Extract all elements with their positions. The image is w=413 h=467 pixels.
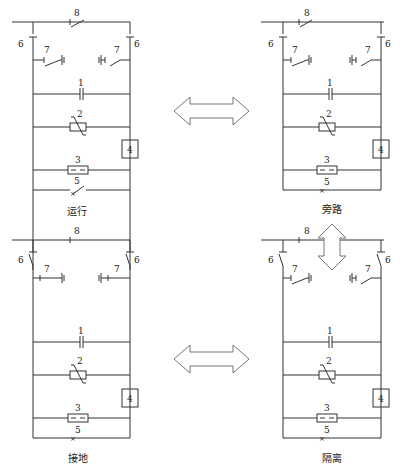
double-arrow-vertical bbox=[318, 224, 346, 270]
svg-text:1: 1 bbox=[327, 78, 333, 88]
svg-text:7: 7 bbox=[292, 264, 298, 274]
panel-grounded: 8 6 6 7 7 1 2 4 3 bbox=[12, 226, 140, 464]
svg-text:5: 5 bbox=[74, 176, 80, 186]
svg-text:×: × bbox=[70, 190, 76, 198]
svg-text:6: 6 bbox=[268, 255, 274, 265]
svg-text:3: 3 bbox=[324, 403, 330, 413]
svg-text:6: 6 bbox=[268, 39, 274, 49]
double-arrow-bottom bbox=[174, 345, 249, 373]
svg-text:7: 7 bbox=[292, 45, 298, 55]
svg-text:3: 3 bbox=[324, 155, 330, 165]
svg-text:×: × bbox=[70, 435, 76, 443]
svg-text:4: 4 bbox=[127, 145, 133, 155]
svg-text:3: 3 bbox=[75, 155, 81, 165]
svg-text:7: 7 bbox=[44, 264, 50, 274]
caption-operation: 运行 bbox=[67, 205, 87, 217]
svg-text:8: 8 bbox=[304, 8, 310, 18]
svg-text:4: 4 bbox=[378, 394, 384, 404]
svg-text:4: 4 bbox=[378, 145, 384, 155]
svg-text:×: × bbox=[319, 435, 325, 443]
svg-text:5: 5 bbox=[324, 425, 330, 435]
svg-text:1: 1 bbox=[78, 326, 84, 336]
svg-text:8: 8 bbox=[74, 226, 80, 236]
svg-text:6: 6 bbox=[134, 255, 140, 265]
diagram-canvas: 8 6 6 7 7 1 2 bbox=[0, 0, 413, 467]
svg-text:2: 2 bbox=[326, 109, 332, 119]
svg-text:7: 7 bbox=[114, 264, 120, 274]
svg-text:3: 3 bbox=[75, 403, 81, 413]
svg-text:1: 1 bbox=[78, 78, 84, 88]
caption-grounded: 接地 bbox=[68, 452, 88, 464]
double-arrow-top bbox=[174, 97, 249, 125]
bypass-switch-open bbox=[71, 20, 84, 27]
caption-bypass: 旁路 bbox=[322, 203, 342, 215]
label-6-left: 6 bbox=[18, 39, 24, 49]
svg-text:8: 8 bbox=[304, 226, 310, 236]
svg-text:7: 7 bbox=[44, 45, 50, 55]
svg-text:7: 7 bbox=[365, 264, 371, 274]
svg-text:2: 2 bbox=[77, 356, 83, 366]
label-8: 8 bbox=[74, 8, 80, 18]
svg-text:7: 7 bbox=[114, 45, 120, 55]
svg-text:1: 1 bbox=[327, 326, 333, 336]
svg-text:6: 6 bbox=[18, 255, 24, 265]
svg-text:2: 2 bbox=[77, 109, 83, 119]
panel-bypass: 8 6 6 7 7 1 2 4 bbox=[261, 8, 391, 215]
svg-text:×: × bbox=[319, 187, 325, 195]
svg-text:2: 2 bbox=[326, 356, 332, 366]
caption-isolated: 隔离 bbox=[322, 452, 342, 464]
svg-text:6: 6 bbox=[385, 255, 391, 265]
svg-text:5: 5 bbox=[75, 425, 81, 435]
label-6-right: 6 bbox=[134, 39, 140, 49]
svg-text:6: 6 bbox=[385, 39, 391, 49]
svg-text:7: 7 bbox=[365, 45, 371, 55]
svg-text:5: 5 bbox=[324, 177, 330, 187]
